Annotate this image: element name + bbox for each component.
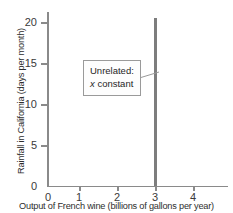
y-axis-line — [47, 12, 49, 187]
y-tick-20 — [41, 22, 47, 24]
chart-figure: 20 15 10 5 0 0 1 2 3 4 Unrelated: x cons… — [0, 0, 233, 213]
x-axis-line — [47, 186, 228, 188]
annotation-line-1: Unrelated: — [90, 65, 134, 77]
data-series-vertical-line — [154, 18, 157, 186]
annotation-callout: Unrelated: x constant — [83, 60, 141, 96]
y-tick-5 — [41, 145, 47, 147]
y-axis-title: Rainfall in California (days per month) — [16, 6, 26, 196]
y-tick-10 — [41, 104, 47, 106]
y-tick-15 — [41, 63, 47, 65]
annotation-line-2: x constant — [90, 78, 134, 90]
annotation-variable-text: constant — [95, 78, 134, 89]
x-axis-title: Output of French wine (billions of gallo… — [0, 201, 233, 211]
